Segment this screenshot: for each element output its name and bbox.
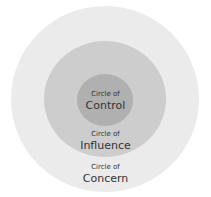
influence-label: Influence	[0, 139, 211, 152]
influence-label-top: Circle of	[0, 130, 211, 138]
concern-label: Concern	[0, 172, 211, 185]
control-label-top: Circle of	[0, 90, 211, 98]
control-label: Control	[0, 99, 211, 112]
concern-label-top: Circle of	[0, 163, 211, 171]
